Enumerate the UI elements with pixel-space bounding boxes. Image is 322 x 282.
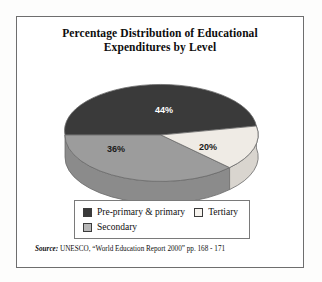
page-title: Percentage Distribution of Educational E…: [17, 26, 303, 54]
source-label: Source:: [35, 245, 58, 253]
pie-label-tertiary: 20%: [199, 142, 217, 152]
pie-label-secondary: 36%: [107, 144, 125, 154]
legend-row: Pre-primary & primary Tertiary: [83, 206, 242, 218]
pie-label-pre-primary: 44%: [155, 105, 173, 115]
pie-chart: 44% 36% 20%: [25, 69, 297, 201]
legend-label-tertiary: Tertiary: [208, 206, 238, 218]
legend-item-secondary[interactable]: Secondary: [83, 221, 137, 233]
legend-swatch-dark-icon: [83, 208, 92, 217]
legend-swatch-light-icon: [194, 208, 203, 217]
legend-label-pre-primary: Pre-primary & primary: [97, 206, 185, 218]
legend-row: Secondary: [83, 221, 242, 233]
chart-title-line-2: Expenditures by Level: [17, 40, 303, 54]
legend-item-tertiary[interactable]: Tertiary: [194, 206, 238, 218]
chart-title-line-1: Percentage Distribution of Educational: [62, 27, 258, 39]
source-note: Source: UNESCO, “World Education Report …: [35, 245, 225, 253]
source-text: UNESCO, “World Education Report 2000” pp…: [60, 245, 225, 253]
legend-item-pre-primary[interactable]: Pre-primary & primary: [83, 206, 185, 218]
legend: Pre-primary & primary Tertiary Secondary: [74, 200, 250, 239]
figure-frame: Percentage Distribution of Educational E…: [16, 16, 304, 268]
legend-swatch-gray-icon: [83, 223, 92, 232]
pie-chart-svg: 44% 36% 20%: [61, 69, 261, 201]
legend-label-secondary: Secondary: [97, 221, 137, 233]
